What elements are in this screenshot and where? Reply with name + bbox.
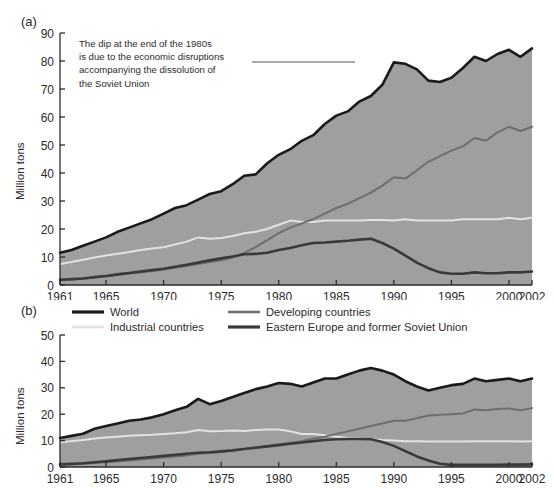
annotation-line-2: is due to the economic disruptions [79, 51, 224, 62]
svg-text:50: 50 [41, 329, 55, 343]
legend-item: Developing countries [228, 306, 371, 318]
svg-text:1975: 1975 [208, 290, 235, 300]
svg-text:1985: 1985 [323, 290, 350, 300]
figure-root: (a) (b) Million tons Million tons 010203… [0, 0, 554, 489]
svg-text:1980: 1980 [265, 290, 292, 300]
svg-text:1965: 1965 [93, 472, 120, 486]
svg-text:40: 40 [41, 167, 55, 181]
legend-label: Developing countries [266, 306, 371, 318]
svg-text:20: 20 [41, 223, 55, 237]
svg-text:60: 60 [41, 111, 55, 125]
svg-text:1970: 1970 [150, 290, 177, 300]
svg-text:1961: 1961 [47, 472, 74, 486]
svg-text:1995: 1995 [438, 290, 465, 300]
svg-text:1990: 1990 [381, 472, 408, 486]
svg-text:90: 90 [41, 27, 55, 41]
svg-text:1961: 1961 [47, 290, 74, 300]
svg-text:30: 30 [41, 381, 55, 395]
svg-text:1965: 1965 [93, 290, 120, 300]
svg-text:1990: 1990 [381, 290, 408, 300]
svg-text:1970: 1970 [150, 472, 177, 486]
svg-text:1995: 1995 [438, 472, 465, 486]
annotation-line-1: The dip at the end of the 1980s [79, 38, 212, 49]
svg-text:80: 80 [41, 55, 55, 69]
svg-text:1980: 1980 [265, 472, 292, 486]
svg-text:10: 10 [41, 251, 55, 265]
svg-text:2002: 2002 [519, 290, 546, 300]
svg-text:70: 70 [41, 83, 55, 97]
svg-text:2002: 2002 [519, 472, 546, 486]
svg-text:20: 20 [41, 408, 55, 422]
svg-text:50: 50 [41, 139, 55, 153]
legend-item: World [72, 306, 139, 318]
svg-text:1985: 1985 [323, 472, 350, 486]
svg-text:40: 40 [41, 355, 55, 369]
annotation-line-3: accompanying the dissolution of [79, 64, 216, 75]
legend-label: World [110, 306, 139, 318]
chart-panel-b: 0102030405019611965197019751980198519901… [0, 328, 554, 488]
svg-text:30: 30 [41, 195, 55, 209]
annotation-line-4: the Soviet Union [79, 78, 149, 89]
chart-panel-a: 0102030405060708090196119651970197519801… [0, 0, 554, 300]
svg-text:10: 10 [41, 434, 55, 448]
svg-text:1975: 1975 [208, 472, 235, 486]
